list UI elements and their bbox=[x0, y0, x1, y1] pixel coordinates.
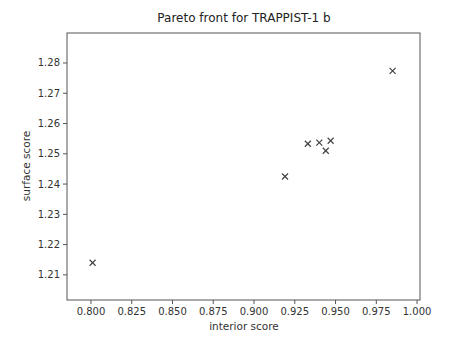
plot-area bbox=[67, 33, 420, 300]
y-tick-label: 1.26 bbox=[38, 118, 60, 129]
y-tick-label: 1.28 bbox=[38, 57, 60, 68]
x-axis: 0.8000.8250.8500.8750.9000.9250.9500.975… bbox=[77, 300, 432, 317]
y-tick-label: 1.27 bbox=[38, 88, 60, 99]
x-marker bbox=[323, 148, 329, 154]
x-tick-label: 0.825 bbox=[117, 306, 146, 317]
x-tick-label: 0.900 bbox=[240, 306, 269, 317]
chart-title: Pareto front for TRAPPIST-1 b bbox=[157, 11, 330, 25]
x-marker bbox=[390, 68, 396, 74]
y-tick-label: 1.23 bbox=[38, 209, 60, 220]
y-tick-label: 1.25 bbox=[38, 148, 60, 159]
y-tick-label: 1.22 bbox=[38, 239, 60, 250]
y-axis: 1.211.221.231.241.251.261.271.28 bbox=[38, 57, 67, 280]
x-tick-label: 0.800 bbox=[77, 306, 106, 317]
x-tick-label: 0.950 bbox=[321, 306, 350, 317]
x-axis-label: interior score bbox=[209, 320, 279, 332]
x-marker bbox=[328, 138, 334, 144]
x-tick-label: 0.975 bbox=[362, 306, 391, 317]
x-marker bbox=[90, 260, 96, 266]
data-points bbox=[90, 68, 396, 266]
x-tick-label: 0.925 bbox=[280, 306, 309, 317]
x-marker bbox=[282, 173, 288, 179]
x-tick-label: 1.000 bbox=[403, 306, 432, 317]
x-tick-label: 0.875 bbox=[199, 306, 228, 317]
y-axis-label: surface score bbox=[20, 131, 32, 201]
y-tick-label: 1.24 bbox=[38, 179, 60, 190]
scatter-chart: Pareto front for TRAPPIST-1 b 0.8000.825… bbox=[0, 0, 458, 351]
x-marker bbox=[316, 140, 322, 146]
x-tick-label: 0.850 bbox=[158, 306, 187, 317]
y-tick-label: 1.21 bbox=[38, 269, 60, 280]
x-marker bbox=[305, 141, 311, 147]
